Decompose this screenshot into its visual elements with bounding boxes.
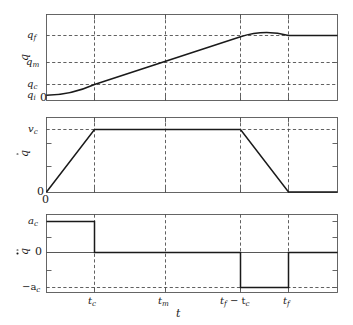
ytick-label-qi: qi — [27, 90, 36, 101]
ytick-label-qm: qm — [26, 57, 39, 68]
origin-label-position: 0 — [40, 92, 47, 103]
qddot-dot-2 — [17, 249, 19, 251]
qddot-dot-1 — [17, 253, 19, 255]
origin-label-velocity: 0 — [42, 194, 49, 205]
plot-canvas: .frame { fill:none; stroke:#555; stroke-… — [0, 0, 353, 325]
xtick-label-tc: tc — [88, 296, 96, 307]
panel-acceleration — [47, 215, 338, 293]
trajectory-figure: .frame { fill:none; stroke:#555; stroke-… — [0, 0, 353, 325]
velocity-curve — [47, 130, 338, 193]
xtick-label-tf: tf — [283, 296, 290, 307]
panel-acceleration-frame — [47, 215, 338, 293]
panel-position — [47, 15, 338, 101]
y-axis-label-acceleration: q — [19, 245, 30, 259]
position-curve — [47, 33, 338, 96]
ytick-label-qf: qf — [27, 30, 36, 41]
ytick-label-ac: ac — [28, 216, 38, 227]
panel-position-frame — [47, 15, 338, 101]
panel-velocity — [47, 118, 338, 193]
y-axis-label-velocity: q — [19, 147, 30, 161]
ytick-label-neg-ac: −ac — [22, 282, 40, 293]
x-axis-label: t — [176, 308, 180, 319]
ytick-label-vc: vc — [28, 124, 38, 135]
xtick-label-tf-minus-tc: tf − tc — [220, 296, 250, 307]
xtick-label-tm: tm — [158, 296, 169, 307]
acceleration-curve — [47, 222, 338, 288]
ytick-label-acceleration-zero: 0 — [35, 246, 42, 257]
